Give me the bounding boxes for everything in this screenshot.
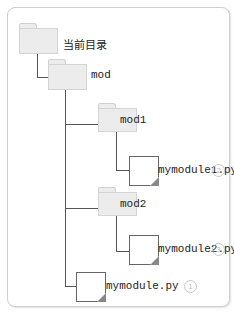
file-icon-mymodule1 bbox=[129, 156, 159, 186]
file-icon-mymodule bbox=[76, 272, 106, 302]
connector-mod1-file bbox=[116, 131, 117, 171]
connector-root-mod-h bbox=[37, 77, 48, 78]
root-folder-label: 当前目录 bbox=[63, 36, 107, 52]
badge-1: 1 bbox=[184, 280, 197, 293]
connector-mod2-file bbox=[116, 215, 117, 252]
connector-mod-mymodule bbox=[65, 286, 76, 287]
badge-3: 3 bbox=[212, 243, 225, 256]
connector-mod1-file-h bbox=[116, 170, 129, 171]
mod1-folder-label: mod1 bbox=[120, 114, 146, 126]
mod2-folder-label: mod2 bbox=[120, 198, 146, 210]
connector-mod2-file-h bbox=[116, 251, 129, 252]
badge-2: 2 bbox=[212, 164, 225, 177]
mymodule-label: mymodule.py bbox=[106, 280, 179, 292]
mod-folder-label: mod bbox=[91, 69, 111, 81]
connector-mod-mod1 bbox=[65, 124, 98, 125]
file-icon-mymodule2 bbox=[129, 235, 159, 265]
connector-mod-mod2 bbox=[65, 208, 98, 209]
connector-mod-trunk bbox=[65, 88, 66, 287]
